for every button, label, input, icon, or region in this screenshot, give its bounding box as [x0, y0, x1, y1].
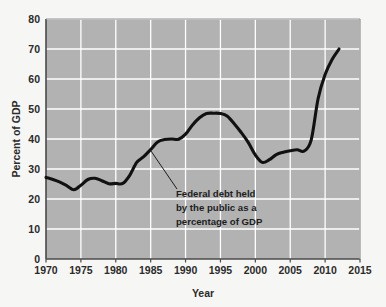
annotation-line-1: Federal debt held — [176, 188, 256, 199]
x-tick-1995: 1995 — [209, 264, 233, 276]
y-axis-tick-labels: 01020304050607080 — [28, 13, 40, 265]
x-tick-2000: 2000 — [244, 264, 268, 276]
x-tick-1975: 1975 — [69, 264, 93, 276]
x-tick-1990: 1990 — [174, 264, 198, 276]
chart-figure: 01020304050607080 1970197519801985199019… — [0, 0, 386, 307]
y-tick-70: 70 — [28, 43, 40, 55]
annotation-line-2: by the public as a — [176, 202, 257, 213]
x-tick-2005: 2005 — [279, 264, 303, 276]
annotation-callout: Federal debt held by the public as a per… — [176, 188, 263, 227]
y-tick-60: 60 — [28, 73, 40, 85]
y-tick-40: 40 — [28, 133, 40, 145]
y-tick-20: 20 — [28, 193, 40, 205]
y-tick-10: 10 — [28, 223, 40, 235]
x-tick-2010: 2010 — [313, 264, 337, 276]
y-tick-50: 50 — [28, 103, 40, 115]
y-tick-30: 30 — [28, 163, 40, 175]
x-tick-1985: 1985 — [139, 264, 163, 276]
x-tick-2015: 2015 — [348, 264, 372, 276]
x-tick-1980: 1980 — [104, 264, 128, 276]
x-axis-title: Year — [192, 287, 214, 299]
y-axis-title: Percent of GDP — [10, 100, 22, 177]
annotation-line-3: percentage of GDP — [176, 216, 263, 227]
x-tick-1970: 1970 — [34, 264, 58, 276]
debt-to-gdp-line-chart: 01020304050607080 1970197519801985199019… — [0, 0, 386, 307]
y-tick-80: 80 — [28, 13, 40, 25]
y-tick-0: 0 — [34, 253, 40, 265]
